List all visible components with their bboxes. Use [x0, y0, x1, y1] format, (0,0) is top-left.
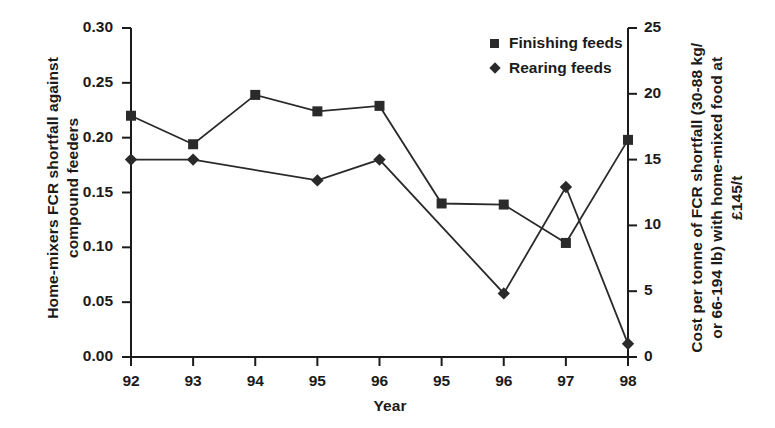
y-axis-left-tick-label: 0.15: [51, 183, 113, 201]
y-axis-left-tick-label: 0.30: [51, 18, 113, 36]
y-axis-right-tick-label: 5: [644, 281, 706, 299]
y-axis-right-tick-label: 25: [644, 18, 706, 36]
y-axis-right-tick-label: 20: [644, 84, 706, 102]
chart-legend: Finishing feeds Rearing feeds: [489, 33, 623, 78]
x-axis-tick-label: 95: [294, 372, 340, 390]
y-axis-left-tick-label: 0.20: [51, 128, 113, 146]
x-axis-tick-label: 96: [357, 372, 403, 390]
legend-label-finishing-feeds: Finishing feeds: [509, 35, 623, 51]
x-axis-tick-label: 98: [605, 372, 651, 390]
x-axis-tick-label: 95: [419, 372, 465, 390]
x-axis-tick-label: 96: [481, 372, 527, 390]
series-group: [125, 90, 634, 350]
x-axis-tick-label: 93: [170, 372, 216, 390]
y-axis-right-tick-label: 10: [644, 215, 706, 233]
legend-item-rearing-feeds: Rearing feeds: [489, 58, 623, 78]
legend-item-finishing-feeds: Finishing feeds: [489, 33, 623, 53]
y-axis-right-tick-label: 0: [644, 347, 706, 365]
square-marker-icon: [489, 39, 500, 48]
y-axis-left-tick-label: 0.25: [51, 73, 113, 91]
x-axis-tick-label: 94: [232, 372, 278, 390]
x-axis-tick-label: 92: [108, 372, 154, 390]
y-axis-left-tick-label: 0.00: [51, 347, 113, 365]
x-axis-tick-label: 97: [543, 372, 589, 390]
legend-label-rearing-feeds: Rearing feeds: [509, 60, 612, 76]
y-axis-left-tick-label: 0.05: [51, 292, 113, 310]
y-axis-right-tick-label: 15: [644, 150, 706, 168]
y-axis-left-tick-label: 0.10: [51, 237, 113, 255]
diamond-marker-icon: [489, 64, 500, 72]
chart-figure: Home-mixers FCR shortfall against compou…: [0, 0, 775, 428]
